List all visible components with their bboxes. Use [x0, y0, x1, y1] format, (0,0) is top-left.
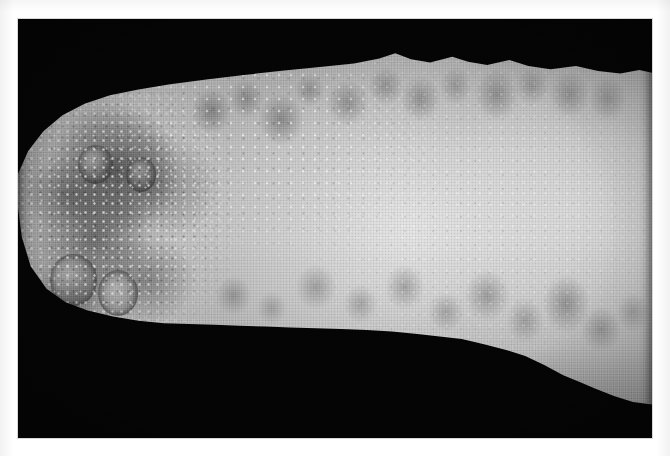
lesion-macules-dorsal: [18, 19, 652, 438]
lesion-annular-d: [126, 157, 156, 191]
lesion-vesicles-dense: [18, 19, 652, 438]
clinical-photograph-plate: [18, 19, 652, 438]
lesion-vesicles-distal: [18, 19, 652, 438]
lesion-macules-ventral: [18, 19, 652, 438]
limb-shading-layer: [18, 19, 652, 438]
lesion-annular-b: [98, 270, 139, 316]
lesion-vesicles-mid: [18, 19, 652, 438]
limb-edge-soften: [18, 19, 652, 438]
skin-grain-texture: [18, 19, 652, 438]
lesion-plaque-proximal: [18, 19, 652, 438]
lesion-annular-c: [78, 145, 114, 184]
page-canvas: Grayscale clinical photograph of a limb …: [0, 0, 670, 456]
limb-silhouette: [18, 19, 652, 438]
image-alt-text: Grayscale clinical photograph of a limb …: [0, 0, 1, 1]
lesion-annular-a: [50, 254, 97, 306]
